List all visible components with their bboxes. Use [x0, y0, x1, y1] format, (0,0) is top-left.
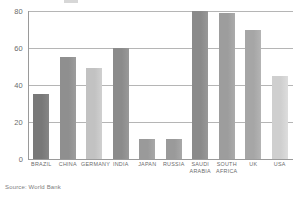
bar [192, 11, 208, 159]
cropped-title-artifact [64, 0, 78, 3]
x-axis-tick-label: BRAZIL [28, 161, 55, 168]
bars-group [28, 11, 293, 159]
gridline-0: 0 [28, 159, 293, 160]
x-axis-tick-label: UK [240, 161, 267, 168]
x-axis-tick-label: RUSSIA [161, 161, 188, 168]
y-axis-tick-label: 80 [14, 7, 23, 16]
x-axis-tick-label: GERMANY [81, 161, 108, 168]
bar-chart-figure: 020406080 BRAZILCHINAGERMANYINDIAJAPANRU… [0, 0, 299, 199]
y-axis-tick-label: 60 [14, 44, 23, 53]
x-axis-tick-label: JAPAN [134, 161, 161, 168]
x-axis-tick-label: USA [267, 161, 294, 168]
bar [245, 30, 261, 160]
bar [113, 48, 129, 159]
plot-area: 020406080 [28, 11, 293, 159]
bar [86, 68, 102, 159]
bar [33, 94, 49, 159]
x-axis-tick-label: SOUTH AFRICA [214, 161, 241, 175]
x-axis-tick-label: SAUDI ARABIA [187, 161, 214, 175]
x-axis-labels-group: BRAZILCHINAGERMANYINDIAJAPANRUSSIASAUDI … [28, 161, 293, 179]
bar [166, 139, 182, 159]
y-axis-tick-label: 40 [14, 81, 23, 90]
bar [219, 13, 235, 159]
y-axis-tick-label: 20 [14, 118, 23, 127]
bar [139, 139, 155, 159]
y-axis-tick-label: 0 [19, 155, 23, 164]
y-axis-spine [28, 11, 29, 159]
x-axis-tick-label: CHINA [55, 161, 82, 168]
bar [60, 57, 76, 159]
x-axis-tick-label: INDIA [108, 161, 135, 168]
source-note: Source: World Bank [5, 184, 61, 190]
bar [272, 76, 288, 159]
